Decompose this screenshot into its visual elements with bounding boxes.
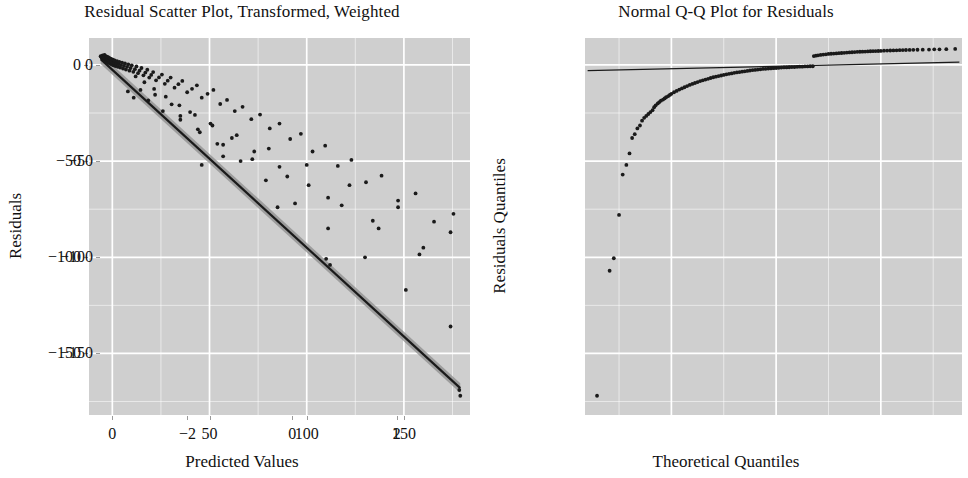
- y-tick-label: −50: [41, 152, 93, 170]
- plot-title-normal-qq: Normal Q-Q Plot for Residuals: [484, 2, 968, 22]
- plot-area-residual-scatter: [89, 38, 470, 415]
- x-tick-mark: [397, 416, 398, 420]
- x-axis-title-left: Predicted Values: [0, 452, 484, 472]
- y-tick-mark: [96, 65, 100, 66]
- plot-title-residual-scatter: Residual Scatter Plot, Transformed, Weig…: [0, 2, 484, 22]
- y-tick-label: −100: [41, 248, 93, 266]
- scatter-canvas-right: [585, 38, 962, 415]
- scatter-canvas-left: [89, 38, 470, 415]
- x-tick-mark: [404, 416, 405, 420]
- x-tick-mark: [292, 416, 293, 420]
- x-tick-mark: [112, 416, 113, 420]
- y-tick-mark: [96, 161, 100, 162]
- panel-normal-qq: Normal Q-Q Plot for Residuals 0−50−100−1…: [484, 0, 968, 478]
- x-tick-mark: [187, 416, 188, 420]
- x-tick-label: 2: [393, 425, 401, 443]
- x-tick-mark: [307, 416, 308, 420]
- y-tick-mark: [96, 353, 100, 354]
- y-axis-title-left: Residuals: [6, 193, 26, 259]
- x-tick-label: 50: [202, 425, 218, 443]
- y-tick-mark: [96, 257, 100, 258]
- y-tick-label: −150: [41, 344, 93, 362]
- y-axis-title-right: Residuals Quantiles: [490, 158, 510, 294]
- x-tick-label: 0: [108, 425, 116, 443]
- x-tick-label: 100: [295, 425, 319, 443]
- x-tick-mark: [210, 416, 211, 420]
- y-tick-label: 0: [41, 56, 93, 74]
- plot-area-normal-qq: [585, 38, 962, 415]
- x-axis-title-right: Theoretical Quantiles: [484, 452, 968, 472]
- figure-container: Residual Scatter Plot, Transformed, Weig…: [0, 0, 968, 478]
- x-tick-label: 0: [288, 425, 296, 443]
- x-tick-label: −2: [179, 425, 196, 443]
